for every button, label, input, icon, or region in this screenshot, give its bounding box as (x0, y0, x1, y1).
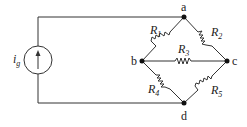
resistor-r3 (142, 58, 227, 64)
node-a (182, 15, 187, 20)
circuit-diagram: ig R1 R2 R3 R4 R5 a b c d (0, 0, 247, 127)
current-source (24, 46, 52, 74)
node-b-label: b (131, 54, 137, 68)
r3-label: R3 (177, 42, 189, 58)
node-c-label: c (232, 54, 237, 68)
r4-label: R4 (147, 82, 159, 98)
node-d (182, 101, 187, 106)
r2-label: R2 (210, 25, 222, 41)
bottom-wire (38, 74, 184, 103)
r5-label: R5 (210, 83, 222, 99)
node-d-label: d (181, 109, 187, 123)
node-b (140, 59, 145, 64)
node-a-label: a (181, 0, 187, 14)
source-label: ig (13, 52, 20, 68)
r1-label: R1 (149, 23, 161, 39)
top-wire (38, 17, 184, 46)
node-c (225, 59, 230, 64)
